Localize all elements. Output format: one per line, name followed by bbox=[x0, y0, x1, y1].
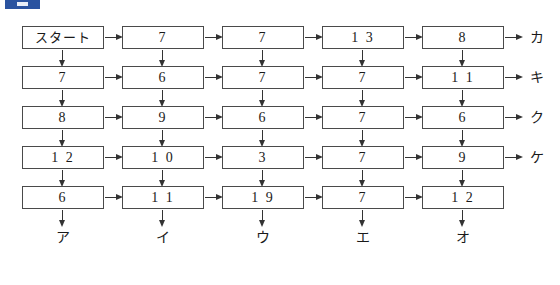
flow-diagram: スタート771 38カ76771 1キ89676ク1 21 0379ケ61 11… bbox=[0, 0, 560, 285]
flow-cell-r3c1: 8 bbox=[22, 106, 104, 129]
arrow-down-icon bbox=[358, 170, 368, 187]
output-label-bottom-4: エ bbox=[352, 231, 374, 245]
flow-cell-r3c3: 6 bbox=[222, 106, 304, 129]
arrow-right-icon bbox=[305, 33, 323, 43]
flow-cell-r4c4: 7 bbox=[322, 146, 404, 169]
flow-cell-r2c4: 7 bbox=[322, 66, 404, 89]
output-label-bottom-5: オ bbox=[452, 231, 474, 245]
arrow-right-icon bbox=[405, 153, 423, 163]
arrow-down-icon bbox=[158, 210, 168, 227]
flow-cell-r1c4: 1 3 bbox=[322, 26, 404, 49]
arrow-down-icon bbox=[458, 210, 468, 227]
flow-cell-r2c3: 7 bbox=[222, 66, 304, 89]
output-label-bottom-1: ア bbox=[52, 231, 74, 245]
flow-cell-r5c2: 1 1 bbox=[122, 186, 204, 209]
flow-cell-r4c3: 3 bbox=[222, 146, 304, 169]
arrow-down-icon bbox=[458, 90, 468, 107]
arrow-right-icon bbox=[205, 153, 223, 163]
arrow-down-icon bbox=[58, 210, 68, 227]
arrow-down-icon bbox=[158, 90, 168, 107]
output-label-bottom-3: ウ bbox=[252, 231, 274, 245]
arrow-right-icon bbox=[505, 113, 523, 123]
arrow-down-icon bbox=[58, 130, 68, 147]
arrow-down-icon bbox=[358, 50, 368, 67]
arrow-down-icon bbox=[258, 170, 268, 187]
arrow-right-icon bbox=[405, 113, 423, 123]
arrow-right-icon bbox=[105, 113, 123, 123]
arrow-right-icon bbox=[305, 153, 323, 163]
arrow-down-icon bbox=[458, 170, 468, 187]
arrow-right-icon bbox=[205, 113, 223, 123]
arrow-right-icon bbox=[105, 153, 123, 163]
flow-cell-r5c1: 6 bbox=[22, 186, 104, 209]
arrow-right-icon bbox=[105, 33, 123, 43]
arrow-right-icon bbox=[205, 33, 223, 43]
arrow-down-icon bbox=[58, 170, 68, 187]
arrow-right-icon bbox=[205, 73, 223, 83]
flow-cell-r4c5: 9 bbox=[422, 146, 504, 169]
arrow-right-icon bbox=[505, 153, 523, 163]
flow-cell-r5c5: 1 2 bbox=[422, 186, 504, 209]
flow-cell-r3c4: 7 bbox=[322, 106, 404, 129]
arrow-right-icon bbox=[205, 193, 223, 203]
arrow-down-icon bbox=[358, 90, 368, 107]
arrow-right-icon bbox=[505, 73, 523, 83]
output-label-right-4: ケ bbox=[526, 151, 548, 165]
flow-cell-r2c2: 6 bbox=[122, 66, 204, 89]
arrow-down-icon bbox=[358, 130, 368, 147]
output-label-right-3: ク bbox=[526, 111, 548, 125]
arrow-right-icon bbox=[405, 73, 423, 83]
arrow-down-icon bbox=[58, 50, 68, 67]
flow-cell-r1c3: 7 bbox=[222, 26, 304, 49]
arrow-down-icon bbox=[158, 170, 168, 187]
arrow-right-icon bbox=[505, 33, 523, 43]
flow-cell-r3c2: 9 bbox=[122, 106, 204, 129]
arrow-right-icon bbox=[305, 113, 323, 123]
output-label-right-1: カ bbox=[526, 31, 548, 45]
flow-cell-r4c1: 1 2 bbox=[22, 146, 104, 169]
arrow-down-icon bbox=[258, 130, 268, 147]
flow-cell-r4c2: 1 0 bbox=[122, 146, 204, 169]
flow-cell-r3c5: 6 bbox=[422, 106, 504, 129]
output-label-bottom-2: イ bbox=[152, 231, 174, 245]
arrow-down-icon bbox=[458, 130, 468, 147]
arrow-down-icon bbox=[458, 50, 468, 67]
arrow-down-icon bbox=[258, 90, 268, 107]
arrow-right-icon bbox=[105, 73, 123, 83]
arrow-down-icon bbox=[358, 210, 368, 227]
flow-cell-r1c5: 8 bbox=[422, 26, 504, 49]
flow-cell-r5c4: 7 bbox=[322, 186, 404, 209]
flow-cell-r2c5: 1 1 bbox=[422, 66, 504, 89]
arrow-down-icon bbox=[158, 130, 168, 147]
arrow-down-icon bbox=[58, 90, 68, 107]
arrow-right-icon bbox=[305, 73, 323, 83]
flow-cell-r5c3: 1 9 bbox=[222, 186, 304, 209]
arrow-right-icon bbox=[305, 193, 323, 203]
arrow-down-icon bbox=[158, 50, 168, 67]
arrow-right-icon bbox=[405, 193, 423, 203]
output-label-right-2: キ bbox=[526, 71, 548, 85]
arrow-right-icon bbox=[405, 33, 423, 43]
arrow-down-icon bbox=[258, 210, 268, 227]
arrow-down-icon bbox=[258, 50, 268, 67]
flow-cell-r2c1: 7 bbox=[22, 66, 104, 89]
arrow-right-icon bbox=[105, 193, 123, 203]
flow-cell-r1c2: 7 bbox=[122, 26, 204, 49]
flow-cell-r1c1: スタート bbox=[22, 26, 104, 49]
